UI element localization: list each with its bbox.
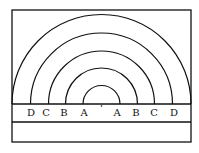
arc-label-a: A <box>112 107 121 118</box>
arc-group <box>12 14 191 104</box>
arc-outer <box>12 14 191 104</box>
arc-label-b: B <box>60 107 67 118</box>
center-dot <box>101 105 103 107</box>
concentric-semicircles-diagram: DCBAABCD <box>0 0 199 153</box>
arc-a <box>83 86 120 105</box>
arc-c <box>49 51 155 104</box>
diagram-canvas: DCBAABCD <box>0 0 199 153</box>
arc-label-b: B <box>132 107 139 118</box>
label-group: DCBAABCD <box>27 107 178 118</box>
arc-label-a: A <box>79 107 88 118</box>
arc-label-c: C <box>150 107 158 118</box>
arc-label-d: D <box>170 107 178 118</box>
arc-label-c: C <box>42 107 50 118</box>
arc-label-d: D <box>27 107 35 118</box>
